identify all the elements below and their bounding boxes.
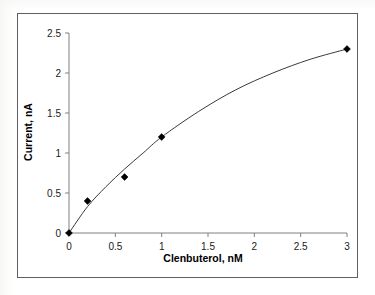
x-axis-tick-label: 2.5 bbox=[294, 241, 308, 252]
y-axis-tick-label: 2 bbox=[55, 68, 61, 79]
x-axis-title: Clenbuterol, nM bbox=[163, 252, 243, 264]
fit-curve-path bbox=[69, 49, 347, 233]
x-axis-tick-group: 00.511.522.53 bbox=[66, 233, 350, 252]
data-point-marker bbox=[121, 174, 128, 181]
y-axis-tick-label: 0.5 bbox=[47, 188, 61, 199]
y-axis-tick-label: 1.5 bbox=[47, 108, 61, 119]
y-axis-title: Current, nA bbox=[22, 103, 34, 161]
data-marker-group bbox=[66, 46, 351, 237]
x-axis-tick-label: 1 bbox=[159, 241, 165, 252]
x-axis-tick-label: 2 bbox=[252, 241, 258, 252]
data-point-marker bbox=[66, 230, 73, 237]
x-axis-tick-label: 0.5 bbox=[108, 241, 122, 252]
y-axis-tick-label: 2.5 bbox=[47, 28, 61, 39]
calibration-curve-chart: 00.511.522.5 00.511.522.53 Clenbuterol, … bbox=[18, 14, 359, 279]
x-axis-tick-label: 3 bbox=[344, 241, 350, 252]
x-axis-tick-label: 1.5 bbox=[201, 241, 215, 252]
y-axis-tick-label: 0 bbox=[55, 228, 61, 239]
data-point-marker bbox=[344, 46, 351, 53]
y-axis-tick-label: 1 bbox=[55, 148, 61, 159]
x-axis-tick-label: 0 bbox=[66, 241, 72, 252]
y-axis-tick-group: 00.511.522.5 bbox=[47, 28, 69, 239]
figure-frame: 00.511.522.5 00.511.522.53 Clenbuterol, … bbox=[17, 13, 358, 278]
